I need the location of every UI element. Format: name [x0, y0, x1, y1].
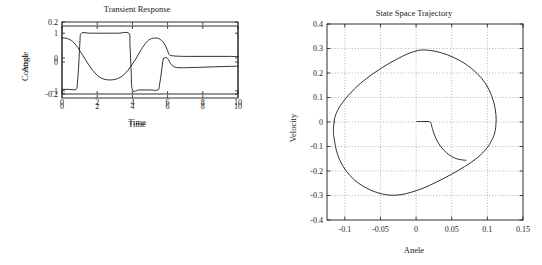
series-loop [333, 50, 496, 195]
x-tick-label: 4 [130, 98, 134, 107]
phase-plot: State Space Trajectory Anele Velocity -0… [271, 0, 542, 265]
x-tick-label: 10 [234, 98, 242, 107]
x-tick-label: -0.1 [338, 225, 351, 234]
y-tick-label: 0.3 [313, 44, 323, 53]
phase-xlabel: Anele [404, 245, 425, 255]
y-tick-label: 0.2 [313, 69, 323, 78]
phase-axes: -0.1-0.0500.050.10.15-0.4-0.3-0.2-0.100.… [310, 20, 530, 234]
phase-title: State Space Trajectory [376, 8, 453, 18]
y-tick-label: 0.1 [313, 93, 323, 102]
x-tick-label: 0 [414, 225, 418, 234]
x-tick-label: 0.05 [445, 225, 459, 234]
angle-xlabel: Time [128, 117, 146, 127]
panel-angle: Time Angle 0246810-0.200.2 [0, 0, 271, 133]
y-tick-label: 0.2 [48, 18, 58, 27]
x-tick-label: 0 [60, 98, 64, 107]
angle-ylabel: Angle [20, 51, 30, 72]
y-tick-label: -0.4 [310, 216, 323, 225]
x-tick-label: 0.1 [482, 225, 492, 234]
panel-phase: State Space Trajectory Anele Velocity -0… [271, 0, 542, 265]
angle-axes: 0246810-0.200.2 [45, 18, 242, 107]
phase-ylabel: Velocity [288, 113, 298, 142]
y-tick-label: -0.3 [310, 191, 323, 200]
series-tail [417, 121, 466, 160]
series-theta(t) [62, 38, 238, 80]
y-tick-label: -0.2 [310, 167, 323, 176]
y-tick-label: 0 [54, 54, 58, 63]
x-tick-label: 0.15 [516, 225, 530, 234]
figure-canvas: Transient Response Time Control 0246810-… [0, 0, 542, 265]
y-tick-label: -0.2 [45, 90, 58, 99]
x-tick-label: -0.05 [372, 225, 389, 234]
y-tick-label: 0 [319, 118, 323, 127]
angle-plot: Time Angle 0246810-0.200.2 [0, 0, 271, 133]
y-tick-label: 0.4 [313, 20, 323, 29]
x-tick-label: 6 [166, 98, 170, 107]
x-tick-label: 8 [201, 98, 205, 107]
y-tick-label: -0.1 [310, 142, 323, 151]
x-tick-label: 2 [95, 98, 99, 107]
